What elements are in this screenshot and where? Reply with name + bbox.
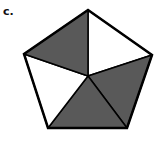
pentagon-diagram: [0, 0, 162, 143]
